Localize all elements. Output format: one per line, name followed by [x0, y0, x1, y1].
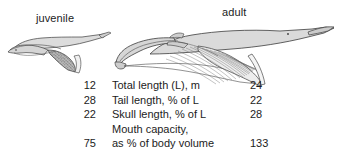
adult-value: 28: [240, 107, 337, 122]
juvenile-value: 28: [0, 93, 104, 108]
measure-label-line2: as % of body volume: [104, 136, 240, 151]
juvenile-tail-fluke: [99, 32, 111, 38]
table-row: 75 as % of body volume 133: [0, 136, 337, 151]
juvenile-whale-illustration: [4, 22, 112, 78]
table-row: 22 Skull length, % of L 28: [0, 107, 337, 122]
table-row: 28 Tail length, % of L 22: [0, 93, 337, 108]
juvenile-value: 22: [0, 107, 104, 122]
empty-cell: [0, 122, 104, 137]
empty-cell: [240, 122, 337, 137]
adult-whale-illustration: [112, 16, 337, 86]
juvenile-value: 75: [0, 136, 104, 151]
comparison-table: 12 Total length (L), m 24 28 Tail length…: [0, 78, 337, 151]
table-body: 12 Total length (L), m 24 28 Tail length…: [0, 78, 337, 151]
measure-label-line1: Mouth capacity,: [104, 122, 240, 137]
measure-label: Total length (L), m: [104, 78, 240, 93]
measure-label: Skull length, % of L: [104, 107, 240, 122]
measure-label: Tail length, % of L: [104, 93, 240, 108]
adult-dorsal-body: [150, 27, 334, 54]
adult-value: 24: [240, 78, 337, 93]
adult-jaw-tip: [115, 62, 126, 69]
adult-value: 133: [240, 136, 337, 151]
table-row: 12 Total length (L), m 24: [0, 78, 337, 93]
whale-comparison-figure: juvenile adult: [0, 0, 337, 157]
adult-value: 22: [240, 93, 337, 108]
table-row-label-first-line: Mouth capacity,: [0, 122, 337, 137]
adult-eye: [287, 33, 289, 35]
juvenile-eye: [15, 49, 17, 51]
juvenile-throat-pouch: [48, 50, 75, 72]
juvenile-value: 12: [0, 78, 104, 93]
